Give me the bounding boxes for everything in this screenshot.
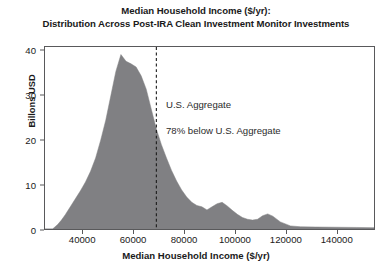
y-tick-label: 20 — [2, 135, 36, 146]
y-tick-label: 40 — [2, 45, 36, 56]
x-tick-mark — [184, 230, 185, 234]
density-area-path — [45, 55, 374, 229]
plot-area — [44, 46, 375, 230]
chart-title-line-2: Distribution Across Post-IRA Clean Inves… — [0, 17, 392, 30]
x-tick-label: 140000 — [302, 234, 372, 245]
x-tick-mark — [337, 230, 338, 234]
x-axis-label: Median Household Income ($/yr) — [0, 250, 392, 261]
annotation-percent-below: 78% below U.S. Aggregate — [166, 125, 281, 136]
y-tick-label: 10 — [2, 180, 36, 191]
chart-figure: Median Household Income ($/yr): Distribu… — [0, 0, 392, 270]
density-area-chart — [45, 47, 374, 229]
chart-title: Median Household Income ($/yr): Distribu… — [0, 4, 392, 30]
y-tick-label: 30 — [2, 90, 36, 101]
annotation-us-aggregate: U.S. Aggregate — [166, 99, 231, 110]
chart-title-line-1: Median Household Income ($/yr): — [0, 4, 392, 17]
x-tick-mark — [133, 230, 134, 234]
x-tick-mark — [82, 230, 83, 234]
x-tick-mark — [286, 230, 287, 234]
y-tick-label: 0 — [2, 225, 36, 236]
x-tick-mark — [235, 230, 236, 234]
